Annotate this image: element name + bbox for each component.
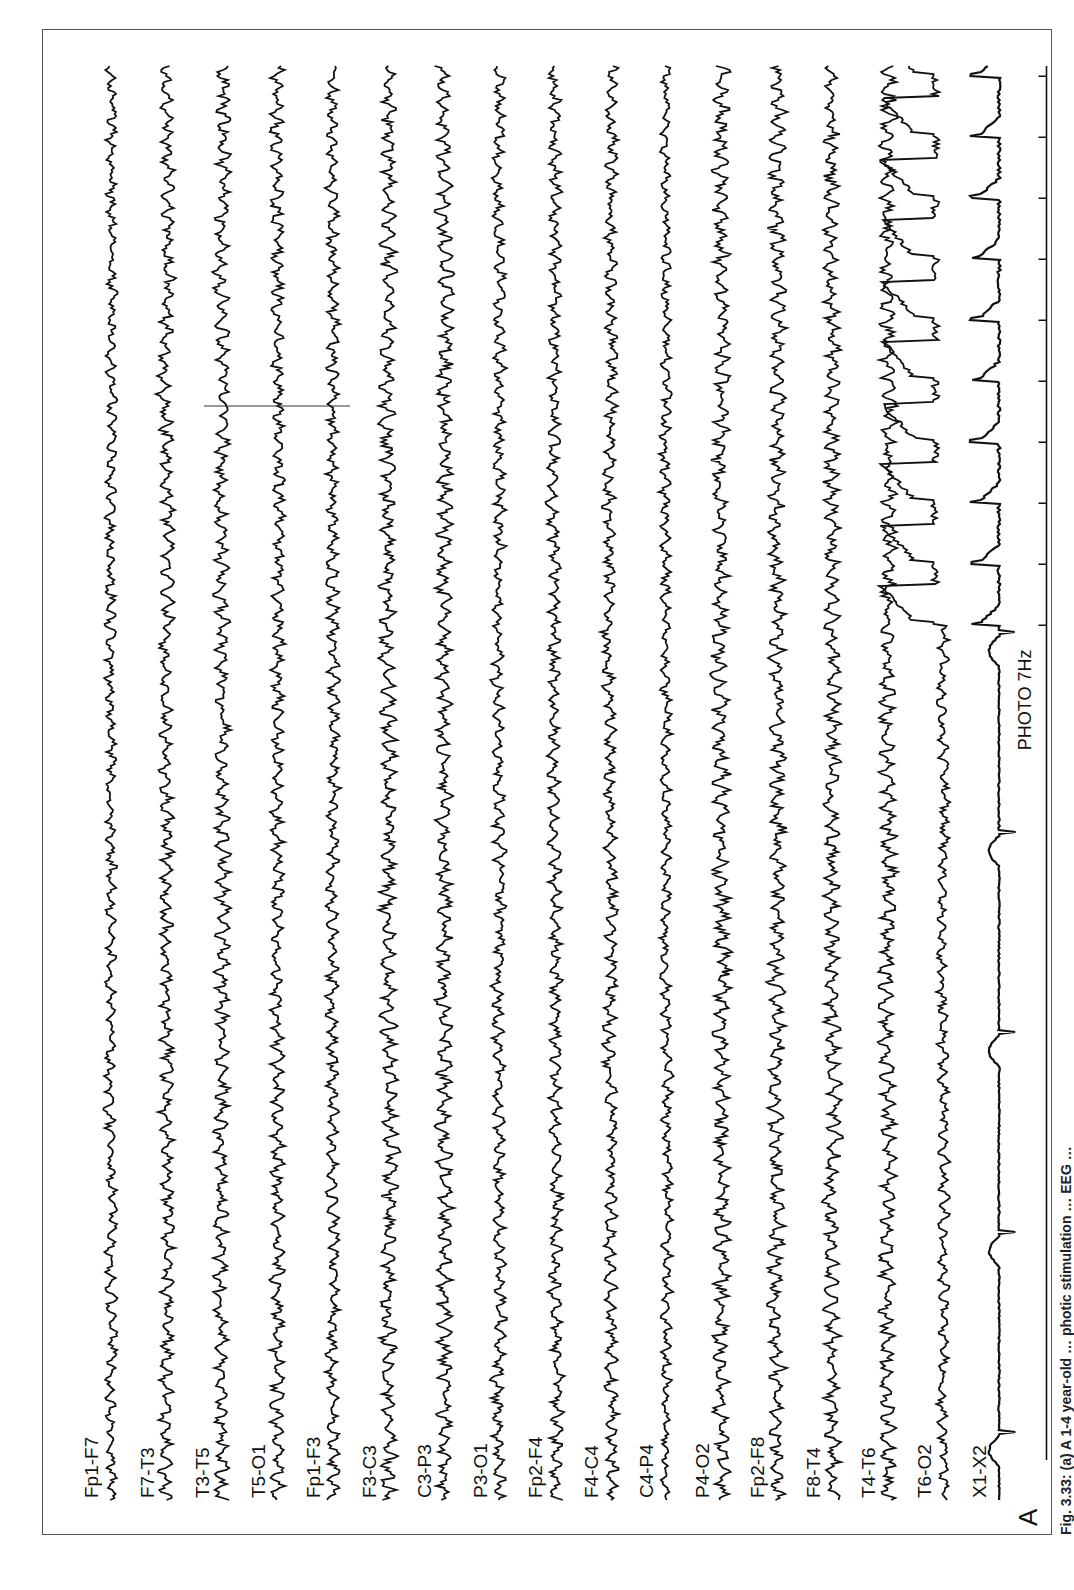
eeg-trace-f4-c4 [600,66,619,1500]
eeg-trace-f3-c3 [378,66,400,1500]
channel-label: T4-T6 [858,1447,880,1498]
eeg-trace-x1-x2 [970,66,1016,1500]
channel-label: C3-P3 [414,1444,436,1498]
channel-label: P3-O1 [470,1443,492,1498]
channel-label: F7-T3 [137,1447,159,1498]
channel-label: Fp2-F8 [747,1437,769,1498]
channel-label: T3-T5 [192,1447,214,1498]
eeg-trace-p3-o1 [490,66,507,1500]
channel-label: P4-O2 [692,1443,714,1498]
photic-stimulus-label: PHOTO 7Hz [1015,650,1036,751]
channel-label: F8-T4 [803,1447,825,1498]
eeg-trace-c4-p4 [659,66,674,1500]
eeg-trace-t3-t5 [212,66,231,1500]
figure-caption: Fig. 3.33: (a) A 1-4 year-old … photic s… [1058,29,1074,1535]
eeg-trace-f8-t4 [822,66,843,1500]
channel-label: X1-X2 [969,1445,991,1498]
eeg-trace-c3-p3 [435,66,455,1500]
channel-label: F3-C3 [359,1445,381,1498]
channel-label: F4-C4 [581,1445,603,1498]
channel-label: Fp1-F7 [81,1437,103,1498]
eeg-trace-fp1-f7 [104,66,118,1500]
eeg-trace-fp1-f3 [325,66,341,1500]
panel-letter: A [1013,1509,1044,1526]
figure-frame: Fp1-F7F7-T3T3-T5T5-O1Fp1-F3F3-C3C3-P3P3-… [42,29,1052,1535]
eeg-trace-p4-o2 [710,66,732,1500]
eeg-trace-f7-t3 [156,66,176,1500]
eeg-trace-fp2-f8 [766,66,787,1500]
channel-label: T6-O2 [914,1444,936,1498]
eeg-trace-t5-o1 [269,66,285,1500]
eeg-traces [43,30,1053,1536]
eeg-trace-fp2-f4 [546,66,565,1500]
photic-stimulus-marker [1039,66,1047,1460]
channel-label: C4-P4 [636,1444,658,1498]
channel-label: Fp2-F4 [525,1437,547,1498]
channel-label: T5-O1 [248,1444,270,1498]
channel-label: Fp1-F3 [303,1437,325,1498]
eeg-panel: Fp1-F7F7-T3T3-T5T5-O1Fp1-F3F3-C3C3-P3P3-… [43,30,1053,1536]
